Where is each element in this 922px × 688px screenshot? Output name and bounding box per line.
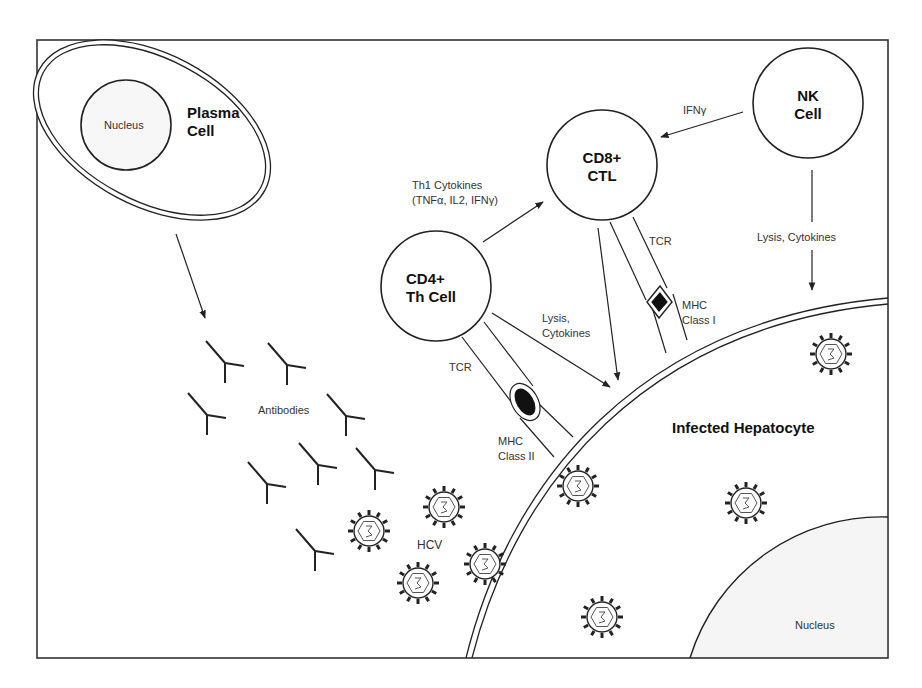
tcr-cd8-label: TCR [649,234,672,248]
cd4-label-1: CD4+ [406,270,445,288]
mhc2-label-1: MHC [498,434,523,448]
tcr-cd4-label: TCR [449,360,472,374]
ifn-gamma-label: IFNγ [683,103,706,117]
cd4-label-2: Th Cell [406,288,456,306]
plasma-cell-label-1: Plasma [187,104,240,122]
plasma-nucleus-label: Nucleus [104,118,144,132]
mhc1-label-2: Class I [682,313,716,327]
cd4-lysis-label-1: Lysis, [542,311,570,325]
nk-cell-label-2: Cell [778,105,838,123]
nk-cell-label-1: NK [788,87,828,105]
plasma-cell-label-2: Cell [187,122,215,140]
cd4-lysis-label-2: Cytokines [542,326,590,340]
mhc1-label-1: MHC [682,298,707,312]
hepatocyte-label: Infected Hepatocyte [672,419,815,437]
nk-lysis-label: Lysis, Cytokines [757,230,836,244]
th1-cytokines-label-1: Th1 Cytokines [412,178,482,192]
hepatocyte-nucleus-label: Nucleus [795,618,835,632]
th1-cytokines-label-2: (TNFα, IL2, IFNγ) [412,193,498,207]
hcv-label: HCV [417,538,442,552]
cd8-label-1: CD8+ [570,149,634,167]
mhc2-label-2: Class II [498,449,535,463]
immune-response-diagram [0,0,922,688]
cd8-label-2: CTL [570,167,634,185]
antibodies-label: Antibodies [258,403,309,417]
